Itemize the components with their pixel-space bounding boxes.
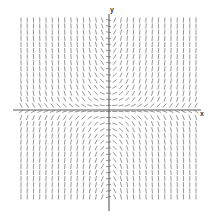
slope-tick [183,133,184,138]
slope-tick [21,91,22,96]
slope-tick [195,103,198,108]
slope-tick [71,152,72,157]
slope-tick [164,146,165,151]
slope-tick [165,66,166,71]
slope-tick [156,111,161,113]
slope-tick [83,170,84,175]
slope-tick [139,48,140,53]
slope-tick [119,117,124,119]
slope-tick [133,30,134,35]
slope-tick [95,48,96,53]
slope-tick [120,146,122,151]
slope-tick [46,133,47,138]
slope-tick [77,85,79,90]
slope-tick [82,122,85,126]
slope-tick [126,122,129,126]
slope-tick [52,121,53,126]
direction-field-canvas [0,0,208,216]
slope-tick [52,146,53,151]
slope-tick [27,85,28,90]
slope-tick [133,146,134,151]
slope-tick [127,152,128,157]
slope-tick [89,170,90,175]
slope-tick [94,98,98,101]
slope-tick [89,188,90,193]
slope-tick [52,72,53,77]
slope-tick [152,85,153,90]
slope-tick [71,139,72,144]
slope-tick [95,182,96,187]
slope-tick [127,66,128,71]
slope-tick [113,61,116,65]
slope-tick [158,133,159,138]
slope-tick [120,60,122,65]
slope-tick [139,85,141,90]
slope-tick [33,85,34,90]
slope-tick [83,17,84,22]
slope-tick [95,176,96,181]
slope-tick [75,111,80,112]
slope-tick [95,158,97,163]
slope-tick [64,121,66,126]
slope-tick [83,139,84,144]
slope-tick [177,127,178,132]
slope-tick [120,30,121,35]
slope-tick [120,36,121,41]
slope-tick [139,91,141,96]
slope-tick [196,133,197,138]
slope-tick [196,85,197,90]
slope-tick [83,85,85,90]
slope-tick [89,152,90,157]
slope-tick [113,170,116,174]
slope-tick [82,97,85,101]
slope-tick [64,91,65,96]
slope-tick [71,60,72,65]
slope-tick [58,139,59,144]
slope-tick [100,98,105,100]
slope-tick [83,60,84,65]
slope-tick [64,139,65,144]
slope-tick [39,127,40,132]
slope-tick [95,134,98,138]
slope-tick [52,91,53,96]
slope-tick [94,85,97,89]
slope-tick [101,164,104,169]
slope-tick [164,97,166,102]
slope-tick [182,103,185,107]
slope-tick [176,103,179,107]
slope-tick [183,115,185,120]
slope-tick [33,133,34,138]
slope-tick [101,176,103,181]
slope-tick [133,194,134,199]
slope-tick [188,103,191,107]
slope-tick [33,78,34,83]
slope-tick [89,42,90,47]
slope-tick [101,36,103,41]
slope-tick [120,17,121,22]
slope-tick [95,24,96,29]
slope-tick [196,91,197,96]
slope-tick [27,133,28,138]
slope-tick [131,111,136,112]
slope-tick [146,54,147,59]
slope-tick [113,176,116,181]
slope-tick [39,97,40,102]
slope-tick [27,127,28,132]
slope-tick [152,72,153,77]
slope-tick [58,133,59,138]
slope-tick [89,17,90,22]
slope-tick [52,85,53,90]
slope-tick [83,72,84,77]
slope-tick [71,72,72,77]
slope-tick [101,182,103,187]
slope-tick [89,66,90,71]
slope-tick [95,188,96,193]
slope-tick [100,134,104,137]
slope-tick [189,91,190,96]
slope-tick [21,133,22,138]
slope-tick [127,36,128,41]
slope-tick [94,128,97,132]
slope-tick [45,121,46,126]
slope-tick [113,146,117,150]
slope-tick [26,103,29,108]
